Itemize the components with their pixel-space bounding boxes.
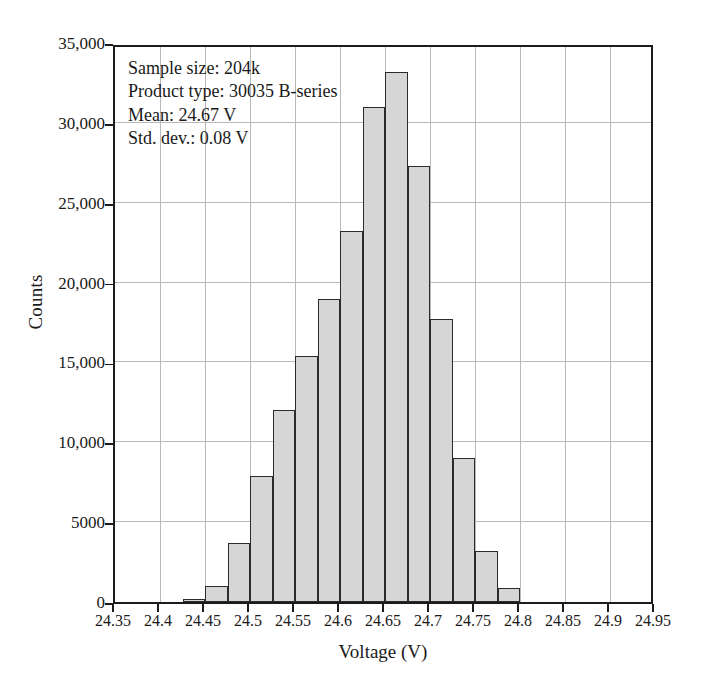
x-axis-tick <box>472 604 474 612</box>
histogram-bar <box>318 299 341 602</box>
x-axis-tick <box>157 604 159 612</box>
x-axis-tick <box>337 604 339 612</box>
x-axis-tick <box>427 604 429 612</box>
annotation-product-type: Product type: 30035 B-series <box>128 80 337 103</box>
histogram-bar <box>408 166 431 602</box>
y-axis-tick-label: 25,000 <box>15 194 105 214</box>
x-axis-tick <box>247 604 249 612</box>
annotation-std-dev: Std. dev.: 0.08 V <box>128 127 337 150</box>
y-axis-tick-label: 20,000 <box>15 274 105 294</box>
y-axis-tick <box>105 364 113 366</box>
histogram-bar <box>250 476 273 602</box>
histogram-bar <box>498 588 521 602</box>
y-axis-tick-label: 30,000 <box>15 114 105 134</box>
x-axis-tick <box>652 604 654 612</box>
y-axis-tick <box>105 284 113 286</box>
gridline-vertical <box>565 47 566 602</box>
y-axis-tick <box>105 443 113 445</box>
y-axis-tick-label: 5000 <box>15 513 105 533</box>
histogram-bar <box>228 543 251 602</box>
gridline-vertical <box>475 47 476 602</box>
histogram-bar <box>475 551 498 602</box>
annotation-box: Sample size: 204k Product type: 30035 B-… <box>128 57 337 151</box>
y-axis-tick <box>105 124 113 126</box>
y-axis-tick <box>105 44 113 46</box>
histogram-bar <box>295 356 318 602</box>
annotation-mean: Mean: 24.67 V <box>128 104 337 127</box>
y-axis-tick-label: 0 <box>15 593 105 613</box>
x-axis-tick <box>517 604 519 612</box>
y-axis-tick-label: 10,000 <box>15 433 105 453</box>
histogram-bar <box>385 72 408 602</box>
y-axis-tick <box>105 523 113 525</box>
histogram-figure: Counts 0500010,00015,00020,00025,00030,0… <box>0 0 703 689</box>
x-axis-tick <box>382 604 384 612</box>
annotation-sample-size: Sample size: 204k <box>128 57 337 80</box>
histogram-bar <box>340 231 363 602</box>
x-axis-tick <box>607 604 609 612</box>
x-axis-tick <box>562 604 564 612</box>
x-axis-tick <box>112 604 114 612</box>
histogram-bar <box>183 599 206 602</box>
histogram-bar <box>205 586 228 602</box>
y-axis-tick-label: 35,000 <box>15 34 105 54</box>
x-axis-title: Voltage (V) <box>113 641 653 663</box>
gridline-vertical <box>520 47 521 602</box>
y-axis-tick <box>105 204 113 206</box>
x-axis-tick <box>292 604 294 612</box>
histogram-bar <box>363 107 386 602</box>
histogram-bar <box>273 410 296 602</box>
histogram-bar <box>453 458 476 602</box>
gridline-vertical <box>610 47 611 602</box>
y-axis-tick-label: 15,000 <box>15 353 105 373</box>
x-axis-tick <box>202 604 204 612</box>
histogram-bar <box>430 319 453 602</box>
x-axis-tick-label: 24.95 <box>618 612 688 630</box>
